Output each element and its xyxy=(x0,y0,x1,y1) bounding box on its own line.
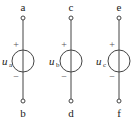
plus-sign: + xyxy=(13,39,19,50)
terminal-label-top: e xyxy=(117,1,122,13)
source-symbol: u xyxy=(49,55,55,67)
terminal-label-top: a xyxy=(21,1,26,13)
terminal-bottom xyxy=(21,99,25,103)
source-symbol: u xyxy=(2,55,8,67)
terminal-label-bottom: f xyxy=(117,107,121,119)
minus-sign: − xyxy=(61,71,67,82)
terminal-label-top: c xyxy=(69,1,74,13)
terminal-label-bottom: d xyxy=(68,107,74,119)
terminal-bottom xyxy=(69,99,73,103)
voltage-source-c: e f + − u c xyxy=(96,1,130,119)
terminal-top xyxy=(21,16,25,20)
minus-sign: − xyxy=(109,71,115,82)
terminal-label-bottom: b xyxy=(20,107,26,119)
terminal-top xyxy=(69,16,73,20)
source-symbol: u xyxy=(96,55,102,67)
voltage-source-b: c d + − u b xyxy=(49,1,82,119)
source-subscript: c xyxy=(103,61,106,69)
plus-sign: + xyxy=(61,39,67,50)
plus-sign: + xyxy=(109,39,115,50)
voltage-sources-diagram: a b + − u a c d + − u b e f + − u c xyxy=(0,0,133,127)
terminal-bottom xyxy=(117,99,121,103)
terminal-top xyxy=(117,16,121,20)
source-subscript: b xyxy=(56,61,60,69)
minus-sign: − xyxy=(13,71,19,82)
voltage-source-a: a b + − u a xyxy=(2,1,34,119)
